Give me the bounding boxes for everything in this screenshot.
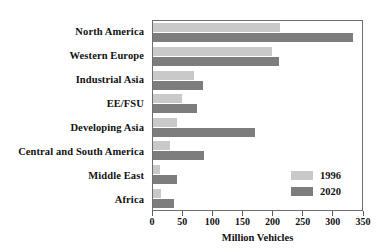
bar-1996 bbox=[153, 47, 272, 56]
bar-1996 bbox=[153, 118, 177, 127]
legend-item-2020: 2020 bbox=[291, 186, 355, 197]
category-label: Industrial Asia bbox=[0, 68, 149, 92]
category-label: Africa bbox=[0, 187, 149, 211]
bar-group bbox=[153, 45, 362, 69]
bar-2020 bbox=[153, 33, 353, 42]
legend-item-1996: 1996 bbox=[291, 170, 355, 181]
x-tick-label: 0 bbox=[150, 216, 155, 227]
x-axis-tick-labels: 050100150200250300350 bbox=[152, 216, 363, 230]
x-axis-title: Million Vehicles bbox=[152, 232, 363, 243]
x-tick-label: 200 bbox=[265, 216, 280, 227]
bar-2020 bbox=[153, 57, 279, 66]
legend-label: 1996 bbox=[320, 170, 341, 181]
category-label: Western Europe bbox=[0, 44, 149, 68]
bar-group bbox=[153, 139, 362, 163]
bar-1996 bbox=[153, 189, 161, 198]
category-axis-labels: North America Western Europe Industrial … bbox=[0, 20, 149, 211]
legend-label: 2020 bbox=[320, 186, 341, 197]
bar-1996 bbox=[153, 165, 160, 174]
bar-group bbox=[153, 116, 362, 140]
x-tick-label: 300 bbox=[325, 216, 340, 227]
bar-gap bbox=[153, 198, 362, 199]
bar-2020 bbox=[153, 199, 174, 208]
x-tick-label: 350 bbox=[356, 216, 371, 227]
category-label: Developing Asia bbox=[0, 116, 149, 140]
x-tick-label: 100 bbox=[205, 216, 220, 227]
bar-group bbox=[153, 92, 362, 116]
bar-group bbox=[153, 21, 362, 45]
legend-swatch-icon bbox=[291, 171, 313, 180]
x-tick-label: 50 bbox=[177, 216, 187, 227]
bar-group bbox=[153, 68, 362, 92]
bar-1996 bbox=[153, 23, 280, 32]
category-label: Middle East bbox=[0, 163, 149, 187]
bar-2020 bbox=[153, 128, 255, 137]
bar-2020 bbox=[153, 151, 204, 160]
bar-2020 bbox=[153, 81, 203, 90]
bar-chart: North America Western Europe Industrial … bbox=[0, 0, 391, 252]
bar-2020 bbox=[153, 175, 177, 184]
category-label: Central and South America bbox=[0, 139, 149, 163]
bar-2020 bbox=[153, 104, 197, 113]
legend-swatch-icon bbox=[291, 187, 313, 196]
bar-1996 bbox=[153, 141, 170, 150]
category-label: North America bbox=[0, 20, 149, 44]
x-tick-label: 150 bbox=[235, 216, 250, 227]
chart-legend: 1996 2020 bbox=[291, 170, 355, 197]
bar-1996 bbox=[153, 94, 182, 103]
category-label: EE/FSU bbox=[0, 92, 149, 116]
bar-1996 bbox=[153, 71, 194, 80]
x-tick-label: 250 bbox=[295, 216, 310, 227]
